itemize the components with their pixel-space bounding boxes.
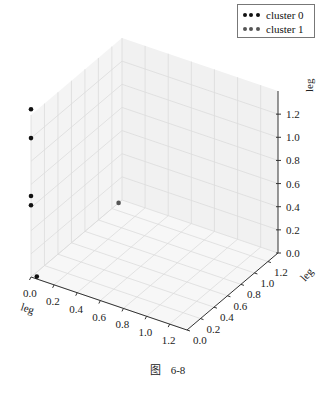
y-tick-label: 0.2 xyxy=(206,323,220,335)
z-tick-label: 0.0 xyxy=(286,247,300,259)
y-tick xyxy=(227,296,230,297)
y-tick-label: 1.2 xyxy=(274,266,288,278)
y-tick-label: 0.4 xyxy=(220,311,234,323)
y-tick xyxy=(268,262,271,263)
legend-marker-cluster-1 xyxy=(242,25,262,33)
legend-item-cluster-0: cluster 0 xyxy=(242,8,304,22)
x-tick xyxy=(53,285,55,288)
legend-marker-cluster-0 xyxy=(242,11,262,19)
x-tick-label: 1.2 xyxy=(162,334,176,346)
data-point-cluster-0 xyxy=(29,107,34,112)
x-tick xyxy=(76,293,78,296)
y-axis-label: leg xyxy=(298,265,316,283)
x-tick xyxy=(99,301,101,304)
y-tick-label: 1.0 xyxy=(260,277,274,289)
legend-item-cluster-1: cluster 1 xyxy=(242,22,304,36)
y-tick xyxy=(187,330,190,331)
y-tick xyxy=(214,307,217,308)
data-point-cluster-1 xyxy=(116,201,121,206)
legend: cluster 0 cluster 1 xyxy=(237,4,315,38)
x-tick-label: 0.0 xyxy=(23,287,37,299)
x-tick-label: 0.2 xyxy=(46,295,60,307)
z-tick-label: 0.8 xyxy=(286,154,300,166)
x-tick-label: 0.6 xyxy=(92,311,106,323)
y-tick xyxy=(254,273,257,274)
y-tick-label: 0.8 xyxy=(247,288,261,300)
data-point-cluster-0 xyxy=(29,194,34,199)
axis-panes xyxy=(31,38,278,330)
z-tick-label: 1.2 xyxy=(286,108,300,120)
x-tick-label: 0.4 xyxy=(69,303,83,315)
figure-caption: 图6-8 xyxy=(0,361,335,377)
caption-number: 6-8 xyxy=(171,364,186,376)
x-tick xyxy=(122,308,124,311)
data-point-cluster-0 xyxy=(35,274,40,279)
scatter-3d-plot: 0.00.00.00.20.20.20.40.40.40.60.60.60.80… xyxy=(0,0,335,395)
z-tick-label: 0.6 xyxy=(286,178,300,190)
y-tick xyxy=(200,319,203,320)
x-axis-label: leg xyxy=(19,300,36,316)
legend-label-cluster-1: cluster 1 xyxy=(266,23,304,35)
y-tick xyxy=(241,284,244,285)
caption-prefix: 图 xyxy=(150,364,161,376)
y-tick-label: 0.6 xyxy=(233,300,247,312)
legend-label-cluster-0: cluster 0 xyxy=(266,9,304,21)
x-tick xyxy=(30,277,32,280)
z-tick-label: 0.4 xyxy=(286,201,300,213)
data-point-cluster-0 xyxy=(29,203,34,208)
x-tick xyxy=(145,316,147,319)
data-point-cluster-0 xyxy=(29,136,34,141)
z-tick-label: 1.0 xyxy=(286,131,300,143)
x-tick-label: 0.8 xyxy=(115,318,129,330)
y-tick-label: 0.0 xyxy=(193,334,207,346)
z-tick-label: 0.2 xyxy=(286,224,300,236)
x-tick-label: 1.0 xyxy=(139,326,153,338)
z-axis-label: leg xyxy=(303,78,315,92)
x-tick xyxy=(168,324,170,327)
